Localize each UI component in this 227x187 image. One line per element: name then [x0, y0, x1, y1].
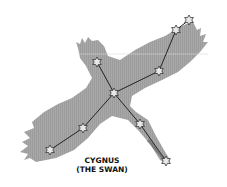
- constellation-label: CYGNUS (THE SWAN): [72, 156, 132, 174]
- subtitle-text: (THE SWAN): [72, 165, 132, 174]
- cygnus-diagram: CYGNUS (THE SWAN): [0, 0, 227, 187]
- title-text: CYGNUS: [72, 156, 132, 165]
